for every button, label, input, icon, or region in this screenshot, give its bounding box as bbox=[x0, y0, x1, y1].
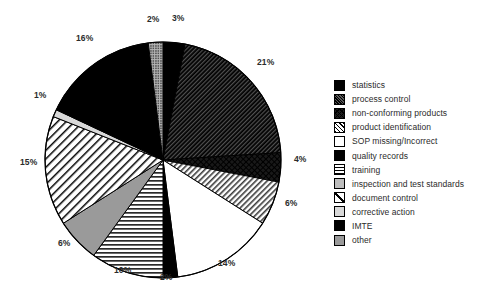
pie-percentage-label: 2% bbox=[160, 272, 173, 282]
legend-swatch-icon bbox=[334, 108, 345, 119]
pie-percentage-label: 15% bbox=[20, 157, 37, 167]
pie-percentage-label: 6% bbox=[285, 198, 298, 208]
pie-percentage-label: 2% bbox=[147, 14, 160, 24]
legend-swatch-icon bbox=[334, 150, 345, 161]
pie-percentage-label: 1% bbox=[34, 90, 47, 100]
pie-percentage-label: 6% bbox=[58, 238, 71, 248]
pie-percentage-label: 14% bbox=[218, 258, 235, 268]
legend-item[interactable]: IMTE bbox=[330, 219, 479, 233]
legend-item[interactable]: corrective action bbox=[330, 205, 479, 219]
legend-item[interactable]: non-conforming products bbox=[330, 106, 479, 120]
legend-swatch-icon bbox=[334, 80, 345, 91]
pie-percentage-label: 21% bbox=[257, 57, 274, 67]
legend-item[interactable]: other bbox=[330, 233, 479, 247]
legend-item[interactable]: inspection and test standards bbox=[330, 177, 479, 191]
legend-item-label: other bbox=[352, 235, 372, 245]
legend-swatch-icon bbox=[334, 178, 345, 189]
legend-item[interactable]: document control bbox=[330, 191, 479, 205]
legend-item-label: statistics bbox=[352, 80, 385, 90]
legend-item[interactable]: process control bbox=[330, 92, 479, 106]
pie-chart: 2%3%21%4%6%14%2%10%6%15%1%16% statistics… bbox=[0, 0, 479, 299]
legend-item[interactable]: SOP missing/Incorrect bbox=[330, 134, 479, 148]
legend-item-label: document control bbox=[352, 193, 418, 203]
legend-item-label: quality records bbox=[352, 151, 408, 161]
legend-swatch-icon bbox=[334, 235, 345, 246]
legend-swatch-icon bbox=[334, 136, 345, 147]
legend-swatch-icon bbox=[334, 192, 345, 203]
pie-percentage-label: 16% bbox=[76, 33, 93, 43]
legend-item[interactable]: training bbox=[330, 163, 479, 177]
legend-item-label: corrective action bbox=[352, 207, 415, 217]
legend-swatch-icon bbox=[334, 220, 345, 231]
legend-swatch-icon bbox=[334, 94, 345, 105]
legend-swatch-icon bbox=[334, 164, 345, 175]
legend-item[interactable]: statistics bbox=[330, 78, 479, 92]
legend-swatch-icon bbox=[334, 122, 345, 133]
pie-plot-area: 2%3%21%4%6%14%2%10%6%15%1%16% bbox=[0, 0, 330, 299]
legend-item-label: product identification bbox=[352, 122, 431, 132]
pie-percentage-label: 10% bbox=[114, 265, 131, 275]
legend-item-label: SOP missing/Incorrect bbox=[352, 136, 437, 146]
pie-svg bbox=[0, 0, 330, 299]
pie-percentage-label: 3% bbox=[172, 13, 185, 23]
legend-item-label: IMTE bbox=[352, 221, 373, 231]
legend-swatch-icon bbox=[334, 206, 345, 217]
pie-percentage-label: 4% bbox=[294, 154, 307, 164]
legend-item-label: training bbox=[352, 165, 380, 175]
legend-item-label: process control bbox=[352, 94, 410, 104]
legend-item-label: inspection and test standards bbox=[352, 179, 464, 189]
legend-item-label: non-conforming products bbox=[352, 108, 447, 118]
legend-item[interactable]: product identification bbox=[330, 120, 479, 134]
legend-item[interactable]: quality records bbox=[330, 148, 479, 162]
chart-legend: statisticsprocess controlnon-conforming … bbox=[330, 78, 479, 247]
